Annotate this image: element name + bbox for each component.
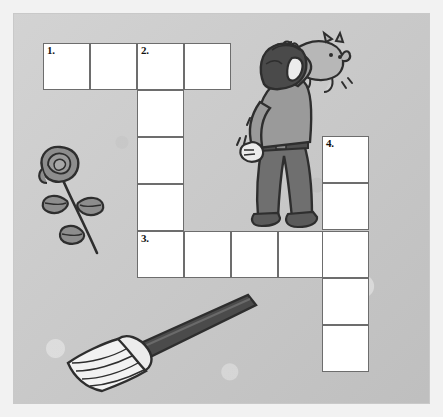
crossword-cell-r3c2[interactable] [137, 184, 184, 231]
crossword-cell-r4c6[interactable] [322, 231, 369, 278]
crossword-cell-r1c2[interactable] [137, 90, 184, 137]
rose-illustration [33, 143, 115, 259]
crossword-cell-r0c2[interactable]: 2. [137, 43, 184, 90]
crossword-cell-r0c3[interactable] [184, 43, 231, 90]
broom-illustration [60, 291, 264, 395]
clue-number: 2. [141, 44, 149, 57]
crossword-cell-r4c2[interactable]: 3. [137, 231, 184, 278]
crossword-cell-r4c3[interactable] [184, 231, 231, 278]
clue-number: 1. [47, 44, 55, 57]
worksheet-page: 1.2.3.4. [0, 0, 443, 417]
crossword-cell-r5c6[interactable] [322, 278, 369, 325]
clue-number: 3. [141, 232, 149, 245]
crossword-cell-r0c0[interactable]: 1. [43, 43, 90, 90]
crossword-cell-r2c2[interactable] [137, 137, 184, 184]
boy-cat-illustration [228, 28, 352, 236]
crossword-cell-r4c4[interactable] [231, 231, 278, 278]
crossword-cell-r0c1[interactable] [90, 43, 137, 90]
boy-figure [240, 42, 317, 228]
crossword-cell-r4c5[interactable] [278, 231, 325, 278]
crossword-cell-r6c6[interactable] [322, 325, 369, 372]
